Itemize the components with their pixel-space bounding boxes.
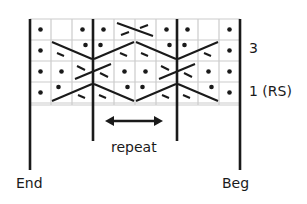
purl-dot-icon xyxy=(38,48,43,53)
purl-dot-icon xyxy=(38,69,43,74)
purl-dot-icon xyxy=(56,85,61,90)
purl-dot-icon xyxy=(209,85,214,90)
cross-dash xyxy=(100,73,108,77)
purl-dot-icon xyxy=(206,69,211,74)
purl-dot-icon xyxy=(167,43,172,48)
row-label-3: 3 xyxy=(249,41,258,55)
purl-dot-icon xyxy=(122,69,127,74)
beg-label: Beg xyxy=(222,176,249,190)
travel-dash xyxy=(204,53,211,56)
purl-dot-icon xyxy=(80,27,85,32)
travel-dash xyxy=(162,95,169,98)
cable-dash xyxy=(121,32,129,35)
purl-dot-icon xyxy=(83,43,88,48)
purl-dot-icon xyxy=(140,85,145,90)
purl-dot-icon xyxy=(38,27,43,32)
purl-dot-icon xyxy=(227,90,232,95)
travel-dash xyxy=(183,95,190,98)
purl-dot-icon xyxy=(164,27,169,32)
purl-dot-icon xyxy=(125,85,130,90)
knitting-chart xyxy=(0,0,307,204)
cable-dash xyxy=(140,25,148,28)
row-label-1-rs: 1 (RS) xyxy=(249,84,292,98)
end-label: End xyxy=(16,176,43,190)
purl-dot-icon xyxy=(182,43,187,48)
cross-dash xyxy=(184,73,192,77)
purl-dot-icon xyxy=(101,27,106,32)
purl-dot-icon xyxy=(227,69,232,74)
purl-dot-icon xyxy=(185,27,190,32)
purl-dot-icon xyxy=(59,69,64,74)
cross-dash xyxy=(77,66,85,70)
arrow-head-left-icon xyxy=(105,116,114,126)
arrow-head-right-icon xyxy=(154,116,163,126)
travel-dash xyxy=(99,95,106,98)
repeat-label: repeat xyxy=(111,140,157,154)
purl-dot-icon xyxy=(38,90,43,95)
travel-dash xyxy=(141,53,148,56)
cross-dash xyxy=(161,66,169,70)
purl-dot-icon xyxy=(227,27,232,32)
travel-dash xyxy=(78,95,85,98)
travel-dash xyxy=(57,53,64,56)
purl-dot-icon xyxy=(143,69,148,74)
purl-dot-icon xyxy=(227,48,232,53)
travel-dash xyxy=(120,53,127,56)
purl-dot-icon xyxy=(98,43,103,48)
